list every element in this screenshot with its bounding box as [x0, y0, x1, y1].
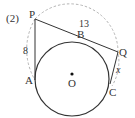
label-c: C — [109, 86, 116, 98]
length-pa: 8 — [23, 45, 28, 56]
length-pq: 13 — [79, 18, 89, 29]
center-point-o — [70, 72, 73, 75]
label-a: A — [25, 74, 33, 86]
label-p: P — [29, 8, 35, 20]
label-q: Q — [119, 46, 127, 58]
length-qc: x — [115, 64, 121, 75]
problem-number: (2) — [6, 12, 19, 25]
label-b: B — [77, 28, 84, 40]
label-o: O — [68, 77, 76, 89]
dashed-outer-arc — [35, 4, 119, 86]
geometry-figure: (2) P A B Q C O 8 13 x — [0, 0, 135, 118]
